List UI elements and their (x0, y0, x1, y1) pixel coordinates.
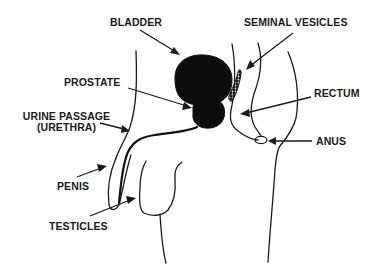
front-body-outline (116, 51, 136, 158)
prostate-shape (193, 99, 225, 128)
testicles-arrowhead (126, 196, 136, 204)
label-seminal-vesicles: SEMINAL VESICLES (244, 17, 348, 28)
seminal-vesicles-arrowhead (246, 60, 255, 70)
rectum-arrowhead (240, 109, 250, 117)
label-bladder: BLADDER (110, 17, 162, 28)
rectum-leader (246, 97, 311, 113)
label-urethra: URINE PASSAGE (URETHRA) (19, 111, 114, 133)
anus-arrowhead (268, 137, 276, 145)
penis-leader (77, 168, 101, 177)
rectum-back-wall (251, 43, 261, 136)
bladder-arrowhead (170, 47, 180, 55)
bladder-shape (175, 55, 232, 106)
back-body-outline (268, 52, 298, 262)
testicle-outline (139, 161, 182, 215)
label-prostate: PROSTATE (64, 77, 120, 88)
leg-line-front (160, 214, 166, 263)
urethra-tube (119, 127, 197, 203)
label-testicles: TESTICLES (49, 221, 108, 232)
label-anus: ANUS (316, 136, 346, 147)
penis-arrowhead (97, 164, 107, 172)
label-penis: PENIS (57, 181, 89, 192)
label-urethra-line2: (URETHRA) (19, 122, 114, 133)
anatomy-diagram: BLADDER SEMINAL VESICLES PROSTATE RECTUM… (0, 0, 380, 277)
testicles-leader (90, 200, 130, 216)
bladder-leader (140, 30, 176, 52)
seminal-vesicles-leader (250, 33, 293, 66)
label-rectum: RECTUM (314, 88, 360, 99)
